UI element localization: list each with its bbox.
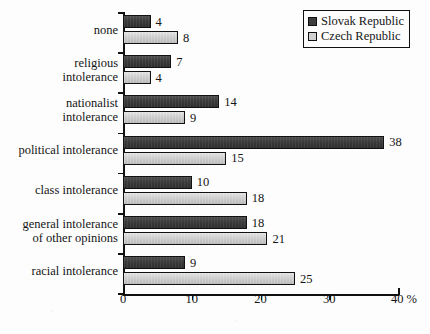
bar-value-label: 18 xyxy=(252,192,265,205)
bar-value-label: 7 xyxy=(176,56,182,69)
bar-czech xyxy=(123,111,185,124)
category-label: political intolerance xyxy=(0,143,118,157)
bar-czech xyxy=(123,232,267,245)
legend-swatch-icon-czech xyxy=(308,32,317,41)
legend-label-czech: Czech Republic xyxy=(321,29,401,44)
x-axis-tick-label: 10 xyxy=(186,292,199,307)
bar-czech xyxy=(123,192,247,205)
plot-area: 4874149381510181821925 xyxy=(123,12,398,295)
bar-czech xyxy=(123,31,178,44)
x-axis-tick-label: 30 xyxy=(323,292,336,307)
bar-czech xyxy=(123,71,151,84)
category-label: racial intolerance xyxy=(0,264,118,278)
category-label: general intolerance of other opinions xyxy=(0,217,118,245)
category-label: religious intolerance xyxy=(0,56,118,84)
bar-value-label: 8 xyxy=(183,32,189,45)
y-axis-tick xyxy=(118,92,123,94)
bar-value-label: 10 xyxy=(197,176,210,189)
bar-czech xyxy=(123,272,295,285)
bar-czech xyxy=(123,152,226,165)
bar-value-label: 9 xyxy=(190,257,196,270)
bar-value-label: 4 xyxy=(156,16,162,29)
y-axis-tick xyxy=(118,12,123,14)
bar-slovak xyxy=(123,256,185,269)
bar-slovak xyxy=(123,176,192,189)
x-axis-tick-label: 40 % xyxy=(391,292,417,307)
bar-slovak xyxy=(123,55,171,68)
bar-value-label: 25 xyxy=(300,273,313,286)
y-axis-tick xyxy=(118,173,123,175)
bar-value-label: 38 xyxy=(389,136,402,149)
bar-value-label: 21 xyxy=(272,233,285,246)
category-label: class intolerance xyxy=(0,183,118,197)
y-axis-tick xyxy=(118,213,123,215)
bar-slovak xyxy=(123,136,384,149)
legend-swatch-icon-slovak xyxy=(308,17,317,26)
bar-value-label: 15 xyxy=(231,152,244,165)
category-label: none xyxy=(0,23,118,37)
bar-slovak xyxy=(123,216,247,229)
bar-value-label: 9 xyxy=(190,112,196,125)
legend-item-czech-republic: Czech Republic xyxy=(308,29,404,44)
x-axis-tick-label: 0 xyxy=(120,292,126,307)
legend-label-slovak: Slovak Republic xyxy=(321,14,404,29)
y-axis-tick xyxy=(118,52,123,54)
bar-value-label: 14 xyxy=(224,96,237,109)
chart-legend: Slovak Republic Czech Republic xyxy=(303,10,410,48)
bar-slovak xyxy=(123,95,219,108)
x-axis-tick-label: 20 xyxy=(254,292,267,307)
y-axis-tick xyxy=(118,133,123,135)
category-label: nationalist intolerance xyxy=(0,96,118,124)
legend-item-slovak-republic: Slovak Republic xyxy=(308,14,404,29)
bar-chart: nonereligious intolerancenationalist int… xyxy=(0,0,430,334)
bar-slovak xyxy=(123,15,151,28)
bar-value-label: 4 xyxy=(156,72,162,85)
bar-value-label: 18 xyxy=(252,217,265,230)
y-axis-tick xyxy=(118,253,123,255)
